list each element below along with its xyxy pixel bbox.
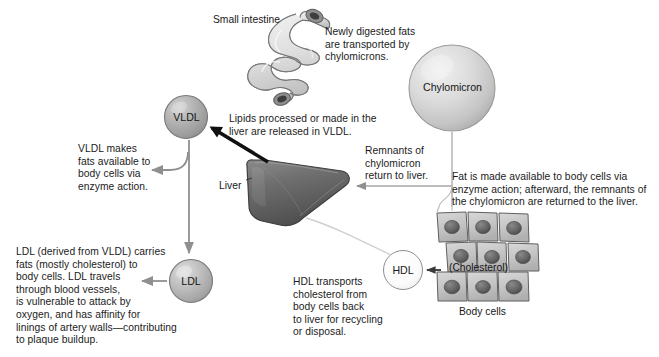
vldl-label: VLDL bbox=[164, 112, 209, 123]
small-intestine-label: Small intestine bbox=[213, 14, 280, 26]
remnants-note: Remnants of chylomicron return to liver. bbox=[365, 145, 428, 183]
cholesterol-label: (Cholesterol) bbox=[449, 262, 508, 274]
liver-icon bbox=[247, 160, 349, 226]
lipids-processed-note: Lipids processed or made in the liver ar… bbox=[229, 113, 377, 138]
vldl-enzyme-note: VLDL makes fats available to body cells … bbox=[78, 143, 150, 193]
flow-remnant-feeder bbox=[437, 186, 452, 212]
liver-label: Liver bbox=[219, 180, 241, 192]
newly-digested-fats-note: Newly digested fats are transported by c… bbox=[325, 26, 415, 64]
flow-hdl-to-liver bbox=[306, 218, 391, 255]
flow-body-cells-to-liver bbox=[357, 186, 452, 211]
lipoprotein-transport-diagram: Small intestine Newly digested fats are … bbox=[0, 0, 659, 357]
cell-grid-icon bbox=[437, 212, 539, 301]
hdl-label: HDL bbox=[383, 265, 423, 276]
fat-available-note: Fat is made available to body cells via … bbox=[452, 171, 646, 209]
flow-vldl-to-enzyme-note bbox=[152, 152, 188, 170]
body-cells-label: Body cells bbox=[459, 306, 506, 318]
hdl-transports-note: HDL transports cholesterol from body cel… bbox=[293, 276, 383, 339]
chylomicron-label: Chylomicron bbox=[410, 82, 495, 93]
ldl-label: LDL bbox=[170, 276, 212, 287]
ldl-description-note: LDL (derived from VLDL) carries fats (mo… bbox=[16, 246, 177, 347]
